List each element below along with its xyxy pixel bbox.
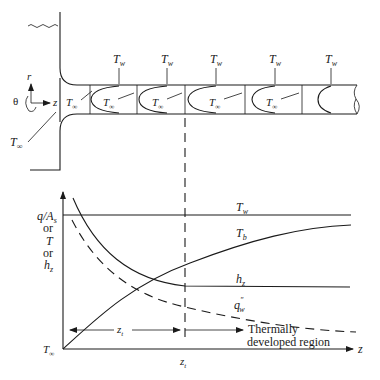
wall-temp-label: Tw bbox=[210, 52, 223, 68]
wall-temp-label: Tw bbox=[269, 52, 282, 68]
reservoir-wall-upper bbox=[60, 12, 357, 85]
curve-label-Tb: Tb bbox=[236, 226, 247, 242]
thermal-entrance-diagram: Tw Tw Tw Tw Tw T∞ T∞ T∞ T∞ T∞ T∞ r θ z bbox=[0, 0, 380, 380]
curve-wall-heat-flux bbox=[72, 220, 356, 332]
core-temp-label: T∞ bbox=[209, 96, 220, 111]
curve-label-qw: q″w bbox=[234, 296, 245, 314]
inlet-temp-label: T∞ bbox=[10, 135, 23, 151]
reservoir-surface bbox=[28, 25, 58, 28]
core-temp-label: T∞ bbox=[266, 96, 277, 111]
wall-temp-label: Tw bbox=[113, 52, 126, 68]
developed-region-label-line1: Thermally bbox=[248, 322, 298, 336]
x-axis-label: z bbox=[357, 342, 363, 356]
core-temp-leader bbox=[118, 93, 134, 99]
core-temp-label: T∞ bbox=[66, 96, 77, 111]
wall-temp-label: Tw bbox=[325, 52, 338, 68]
curve-heat-transfer-coefficient bbox=[73, 198, 350, 287]
inlet-temp-leader bbox=[28, 112, 56, 142]
y-axis-label-or: or bbox=[43, 221, 53, 235]
coordinate-system: r θ z bbox=[13, 70, 58, 112]
z-label: z bbox=[52, 96, 58, 108]
curve-label-hz: hz bbox=[236, 272, 246, 288]
development-plot: z q/As or T or hz T∞ Tw Tb hz q″w zt The… bbox=[37, 192, 363, 370]
core-temp-leader bbox=[224, 93, 242, 99]
tube-schematic: Tw Tw Tw Tw Tw T∞ T∞ T∞ T∞ T∞ T∞ r θ z bbox=[10, 12, 359, 170]
theta-label: θ bbox=[13, 95, 18, 107]
core-temp-label: T∞ bbox=[103, 96, 114, 111]
tube-cut-end bbox=[354, 85, 359, 114]
entrance-tick-label: zt bbox=[179, 355, 187, 370]
core-temp-leader bbox=[167, 93, 182, 99]
curve-label-Tw: Tw bbox=[236, 200, 249, 216]
origin-label: T∞ bbox=[43, 343, 54, 358]
developed-region-label-line2: developed region bbox=[247, 335, 330, 349]
core-temp-leader bbox=[281, 93, 299, 99]
core-temp-label: T∞ bbox=[152, 96, 163, 111]
y-axis-label-h: hz bbox=[44, 258, 54, 274]
temperature-profile bbox=[318, 86, 331, 113]
wall-temp-label: Tw bbox=[161, 52, 174, 68]
r-label: r bbox=[27, 70, 32, 82]
reservoir-wall-lower bbox=[30, 114, 357, 170]
